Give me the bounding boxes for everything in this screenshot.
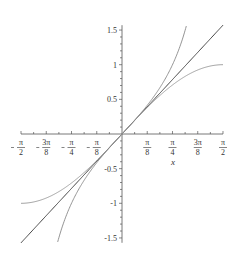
y-tick-label: -0.5: [104, 165, 117, 174]
svg-text:4: 4: [70, 148, 74, 157]
y-tick-label: 1: [113, 61, 117, 70]
x-tick-label: π8: [87, 138, 101, 157]
svg-text:4: 4: [171, 148, 175, 157]
svg-text:3π: 3π: [42, 138, 50, 147]
svg-text:8: 8: [145, 148, 149, 157]
y-tick-label: 0.5: [107, 95, 117, 104]
svg-text:8: 8: [44, 148, 48, 157]
svg-text:π: π: [221, 138, 225, 147]
svg-text:2: 2: [221, 148, 225, 157]
x-tick-label: π8: [143, 138, 151, 157]
y-tick-label: 1.5: [107, 26, 117, 35]
x-axis-label: x: [170, 157, 175, 167]
x-tick-label: π4: [62, 138, 76, 157]
x-tick-label: π4: [169, 138, 177, 157]
svg-text:π: π: [69, 138, 73, 147]
svg-text:π: π: [95, 138, 99, 147]
x-tick-label: π2: [219, 138, 227, 157]
x-tick-label: 3π8: [36, 138, 50, 157]
tick-labels: π23π8π4π8π8π43π8π21.510.5-0.5-1-1.5: [11, 26, 227, 243]
svg-text:2: 2: [19, 148, 23, 157]
svg-text:π: π: [145, 138, 149, 147]
svg-text:8: 8: [95, 148, 99, 157]
y-tick-label: -1: [110, 199, 117, 208]
x-tick-label: π2: [11, 138, 25, 157]
x-tick-label: 3π8: [194, 138, 202, 157]
svg-text:3π: 3π: [194, 138, 202, 147]
svg-text:π: π: [19, 138, 23, 147]
y-tick-label: -1.5: [104, 234, 117, 243]
svg-text:8: 8: [196, 148, 200, 157]
svg-text:π: π: [170, 138, 174, 147]
function-plot: π23π8π4π8π8π43π8π21.510.5-0.5-1-1.5 x: [0, 0, 241, 257]
